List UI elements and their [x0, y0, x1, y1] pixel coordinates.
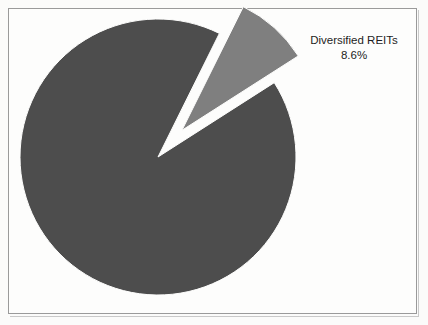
pie-chart-screenshot: Diversified REITs 8.6%	[0, 0, 428, 325]
slice-callout-label: Diversified REITs 8.6%	[292, 33, 416, 63]
pie-slices-group	[20, 7, 298, 295]
slice-callout-name: Diversified REITs	[292, 33, 416, 48]
slice-callout-value: 8.6%	[292, 48, 416, 63]
